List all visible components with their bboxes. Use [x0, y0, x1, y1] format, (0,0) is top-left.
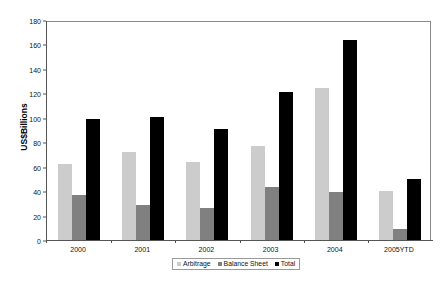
bar-arbitrage-2003: [251, 146, 265, 240]
x-tick-label-2003: 2003: [263, 246, 279, 253]
bar-balance-sheet-2000: [72, 195, 86, 240]
x-tick-mark: [304, 240, 305, 243]
bar-total-2000: [86, 119, 100, 240]
y-tick-mark: [43, 241, 46, 242]
y-tick-label: 40: [21, 189, 41, 196]
x-tick-mark: [240, 240, 241, 243]
y-tick-mark: [43, 94, 46, 95]
bar-arbitrage-2005ytd: [379, 191, 393, 240]
bar-group: [175, 22, 239, 240]
bar-total-2002: [214, 129, 228, 240]
y-axis-title: US$Billions: [19, 62, 29, 192]
x-tick-mark: [368, 240, 369, 243]
y-tick-mark: [43, 192, 46, 193]
y-tick-mark: [43, 45, 46, 46]
legend-swatch-icon: [177, 262, 181, 266]
legend-item-label: Total: [281, 260, 295, 267]
bar-total-2001: [150, 117, 164, 240]
bar-group-bars: [368, 22, 432, 240]
y-tick-label: 100: [21, 115, 41, 122]
bar-arbitrage-2002: [186, 162, 200, 240]
plot-area: [46, 21, 431, 241]
bar-group-bars: [304, 22, 368, 240]
x-tick-label-2005ytd: 2005YTD: [384, 246, 414, 253]
bar-group-bars: [175, 22, 239, 240]
y-tick-label: 80: [21, 140, 41, 147]
x-tick-label-2004: 2004: [327, 246, 343, 253]
chart-legend: ArbitrageBalance SheetTotal: [172, 258, 300, 270]
bar-arbitrage-2001: [122, 152, 136, 240]
y-tick-mark: [43, 69, 46, 70]
y-tick-mark: [43, 21, 46, 22]
bar-group: [304, 22, 368, 240]
x-tick-mark: [111, 240, 112, 243]
bar-total-2004: [343, 40, 357, 240]
y-tick-mark: [43, 216, 46, 217]
bar-balance-sheet-2005ytd: [393, 229, 407, 240]
y-tick-label: 0: [21, 238, 41, 245]
x-tick-label-2000: 2000: [70, 246, 86, 253]
bar-total-2003: [279, 92, 293, 240]
y-tick-label: 180: [21, 18, 41, 25]
bar-balance-sheet-2004: [329, 192, 343, 240]
bar-total-2005ytd: [407, 179, 421, 240]
bar-group: [240, 22, 304, 240]
bar-arbitrage-2004: [315, 88, 329, 240]
bar-chart: US$Billions 180160140120100806040200 200…: [0, 0, 448, 291]
y-tick-label: 20: [21, 213, 41, 220]
bar-group: [111, 22, 175, 240]
legend-item-label: Balance Sheet: [224, 260, 268, 267]
legend-item-label: Arbitrage: [183, 260, 211, 267]
plot-inner: [47, 22, 430, 240]
legend-swatch-icon: [275, 262, 279, 266]
legend-item-balancesheet: Balance Sheet: [218, 260, 268, 267]
legend-item-arbitrage: Arbitrage: [177, 260, 211, 267]
y-tick-label: 120: [21, 91, 41, 98]
bar-balance-sheet-2001: [136, 205, 150, 240]
x-tick-label-2001: 2001: [134, 246, 150, 253]
y-tick-label: 140: [21, 66, 41, 73]
y-tick-mark: [43, 167, 46, 168]
bar-group: [368, 22, 432, 240]
y-tick-label: 160: [21, 42, 41, 49]
legend-swatch-icon: [218, 262, 222, 266]
bar-group-bars: [111, 22, 175, 240]
bar-balance-sheet-2002: [200, 208, 214, 240]
legend-item-total: Total: [275, 260, 295, 267]
x-tick-mark: [175, 240, 176, 243]
x-tick-label-2002: 2002: [199, 246, 215, 253]
bar-balance-sheet-2003: [265, 187, 279, 240]
y-tick-mark: [43, 118, 46, 119]
bar-arbitrage-2000: [58, 164, 72, 240]
bar-group-bars: [47, 22, 111, 240]
bar-group: [47, 22, 111, 240]
y-tick-mark: [43, 143, 46, 144]
bar-group-bars: [240, 22, 304, 240]
y-tick-label: 60: [21, 164, 41, 171]
